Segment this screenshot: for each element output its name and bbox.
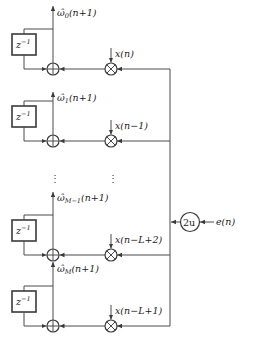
lms-diagram: 2u e(n) x(n) ω̂0(n+1) z−1 x(n−1) ω̂1(n+1…: [0, 0, 256, 340]
output-label: ω̂M−1(n+1): [57, 192, 109, 205]
row-1: x(n−1) ω̂1(n+1) z−1: [12, 92, 170, 147]
input-label: x(n−1): [115, 120, 148, 131]
row-m: x(n−L+1) ω̂M(n+1) z−1: [12, 262, 170, 332]
gain-block: 2u: [181, 213, 200, 232]
ellipsis-right: ⋮: [108, 173, 118, 184]
output-label: ω̂0(n+1): [57, 7, 97, 20]
input-label: x(n): [115, 48, 134, 59]
gain-label: 2u: [183, 217, 195, 228]
row-0: x(n) ω̂0(n+1) z−1: [12, 6, 170, 75]
input-label: x(n−L+2): [115, 234, 162, 245]
output-label: ω̂1(n+1): [57, 92, 97, 105]
row-m-minus-1: x(n−L+2) ω̂M−1(n+1) z−1: [12, 192, 170, 261]
ellipsis-left: ⋮: [50, 173, 60, 184]
error-input-label: e(n): [216, 216, 235, 227]
input-label: x(n−L+1): [115, 305, 162, 316]
output-label: ω̂M(n+1): [57, 263, 99, 276]
